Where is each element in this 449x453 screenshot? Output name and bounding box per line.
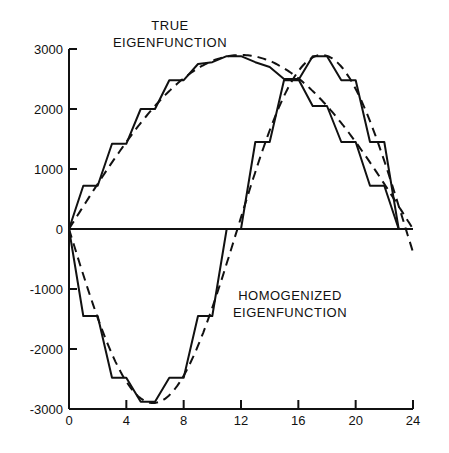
series-line-2: [69, 55, 413, 229]
y-tick-label: -2000: [30, 342, 63, 357]
y-tick-label: 0: [56, 222, 63, 237]
x-tick-label: 4: [123, 413, 130, 428]
y-tick-label: -3000: [30, 402, 63, 417]
x-tick-label: 12: [234, 413, 248, 428]
series-line-1: [69, 56, 399, 229]
x-tick-label: 8: [180, 413, 187, 428]
annotation-label: EIGENFUNCTION: [233, 305, 347, 320]
annotations: TRUEEIGENFUNCTIONHOMOGENIZEDEIGENFUNCTIO…: [113, 18, 347, 320]
annotation-label: HOMOGENIZED: [238, 288, 342, 303]
x-tick-label: 20: [348, 413, 362, 428]
y-tick-label: 3000: [34, 42, 63, 57]
annotation-label: TRUE: [151, 18, 188, 33]
x-tick-label: 24: [406, 413, 420, 428]
y-tick-label: 1000: [34, 162, 63, 177]
eigenfunction-chart: 3000200010000-1000-2000-300004812162024 …: [0, 0, 449, 453]
annotation-label: EIGENFUNCTION: [113, 35, 227, 50]
x-tick-label: 16: [291, 413, 305, 428]
x-tick-label: 0: [65, 413, 72, 428]
y-tick-label: 2000: [34, 102, 63, 117]
y-tick-label: -1000: [30, 282, 63, 297]
